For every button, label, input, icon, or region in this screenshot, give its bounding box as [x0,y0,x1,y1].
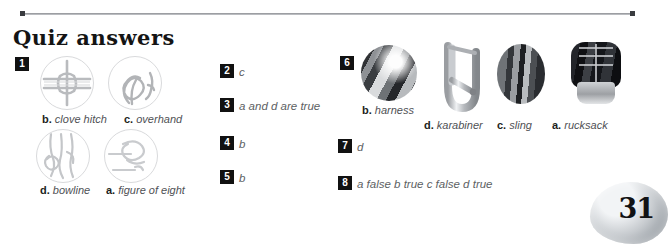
harness-photo [361,45,417,101]
caption-bowline: d. bowline [40,184,90,196]
caption-figure-of-eight: a. figure of eight [106,184,185,196]
question-number-badge-1: 1 [15,57,29,71]
rucksack-photo [565,42,627,106]
question-number-badge-3: 3 [220,98,234,112]
answer-text-4: b [239,138,245,150]
caption-letter: d. [424,119,434,131]
caption-letter: a. [106,184,115,196]
caption-name: figure of eight [118,184,185,196]
caption-name: bowline [53,184,90,196]
clove-hitch-knot-icon [40,56,94,110]
answer-text-3: a and d are true [239,100,320,112]
caption-name: karabiner [437,119,483,131]
header-rule-right-cap [630,11,635,16]
caption-name: harness [375,104,414,116]
header-rule-left-cap [20,11,25,16]
caption-overhand: c. overhand [124,113,182,125]
caption-letter: d. [40,184,50,196]
question-number-badge-2: 2 [220,64,234,78]
caption-name: sling [509,119,532,131]
caption-letter: c. [124,113,133,125]
caption-letter: c. [497,119,506,131]
caption-clove-hitch: b. clove hitch [42,113,107,125]
page-number: 31 [618,193,654,224]
question-number-badge-6: 6 [340,56,354,70]
question-number-badge-5: 5 [220,170,234,184]
caption-karabiner: d. karabiner [424,119,483,131]
answer-text-7: d [357,141,363,153]
caption-letter: b. [362,104,372,116]
karabiner-photo [432,42,484,118]
caption-name: overhand [136,113,182,125]
sling-photo [497,44,545,104]
answer-text-5: b [239,172,245,184]
answer-text-8: a false b true c false d true [357,178,493,190]
caption-letter: a. [552,119,561,131]
question-number-badge-8: 8 [338,176,352,190]
figure-of-eight-knot-icon [104,129,158,183]
question-number-badge-4: 4 [220,136,234,150]
answer-text-2: c [239,66,245,78]
caption-name: rucksack [564,119,607,131]
bowline-knot-icon [36,129,90,183]
question-number-badge-7: 7 [338,139,352,153]
caption-letter: b. [42,113,52,125]
caption-name: clove hitch [55,113,107,125]
caption-harness: b. harness [362,104,414,116]
page-title: Quiz answers [13,25,175,50]
header-rule [22,13,633,15]
overhand-knot-icon [108,56,162,110]
caption-rucksack: a. rucksack [552,119,608,131]
caption-sling: c. sling [497,119,532,131]
